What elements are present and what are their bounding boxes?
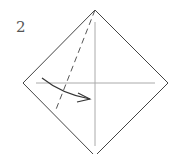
origami-diagram: 2 xyxy=(0,0,180,154)
dashed-fold-line xyxy=(55,10,95,112)
diagram-canvas xyxy=(0,0,180,154)
